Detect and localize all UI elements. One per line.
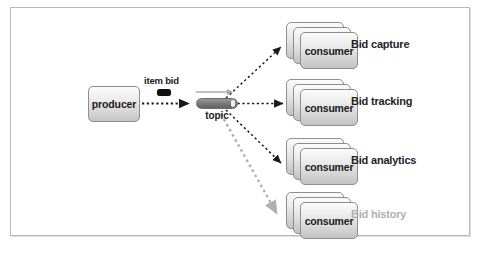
consumer-label: consumer <box>300 148 358 185</box>
consumer-caption-2: Bid tracking <box>351 95 412 107</box>
consumer-label: consumer <box>300 32 358 69</box>
message-marker <box>157 89 171 96</box>
consumer-label: consumer <box>300 202 358 239</box>
topic-pill-icon <box>196 98 238 109</box>
consumer-caption-4: Bid history <box>351 208 406 220</box>
consumer-stack-3[interactable]: consumer <box>286 138 360 186</box>
consumer-caption-3: Bid analytics <box>351 154 416 166</box>
producer-label: producer <box>89 87 139 121</box>
consumer-stack-1[interactable]: consumer <box>286 22 360 70</box>
consumer-stack-2[interactable]: consumer <box>286 79 360 127</box>
topic-pill-highlight <box>231 100 235 107</box>
producer-node[interactable]: producer <box>88 86 140 122</box>
diagram-root: producer item bid topic consumer Bid cap… <box>0 0 496 258</box>
message-label: item bid <box>144 75 179 86</box>
consumer-label: consumer <box>300 89 358 126</box>
consumer-caption-1: Bid capture <box>351 38 409 50</box>
topic-label: topic <box>192 110 242 121</box>
topic-node[interactable]: topic <box>192 84 254 122</box>
consumer-stack-4[interactable]: consumer <box>286 192 360 240</box>
